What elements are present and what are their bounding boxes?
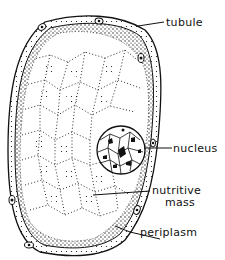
label-tubule: tubule xyxy=(166,16,203,29)
label-nucleus: nucleus xyxy=(173,142,218,155)
tubule-leader-line xyxy=(138,22,164,26)
label-periplasm: periplasm xyxy=(140,226,197,239)
nucleus xyxy=(97,126,145,174)
tubule-cross-section-diagram: tubule nucleus nutritive mass periplasm xyxy=(0,0,225,260)
label-nutritive-mass-line2: mass xyxy=(165,196,195,209)
